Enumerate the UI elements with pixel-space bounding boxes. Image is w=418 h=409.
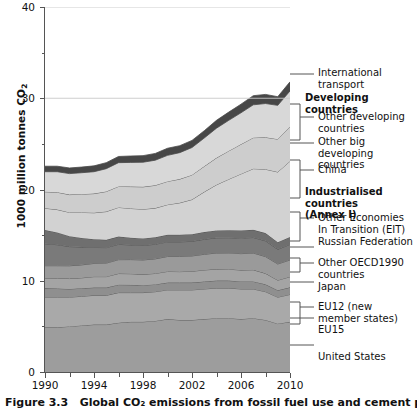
caption-text: Global CO₂ emissions from fossil fuel us… (80, 396, 417, 409)
figure-caption: Figure 3.3 Global CO₂ emissions from fos… (5, 396, 417, 409)
leader-line (290, 160, 300, 198)
leader-line (290, 258, 300, 272)
leader-line (290, 212, 300, 241)
caption-prefix: Figure 3.3 (5, 396, 68, 409)
leader-line (290, 104, 300, 140)
leader-line (290, 302, 300, 324)
